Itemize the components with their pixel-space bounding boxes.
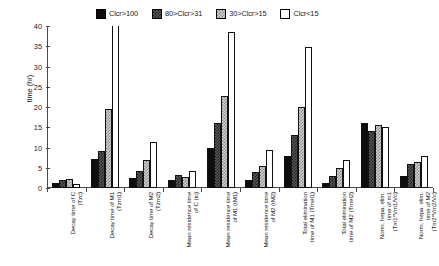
bar-9-2 <box>414 162 421 188</box>
bar-group-3 <box>163 26 202 188</box>
y-tick-label-10: 10 <box>34 143 42 152</box>
legend-label-2: 30>Clcr>15 <box>229 10 266 18</box>
legend-item-0: Clcr>100 <box>96 9 138 19</box>
bar-8-3 <box>382 127 389 188</box>
x-axis-label-3: Mean residence time of C (tc) <box>186 192 198 266</box>
bar-group-9 <box>394 26 433 188</box>
y-tick-label-35: 35 <box>34 42 42 51</box>
bar-3-1 <box>175 175 182 188</box>
bar-6-0 <box>284 156 291 188</box>
legend-swatch-icon-0 <box>96 9 106 19</box>
bar-group-0 <box>47 26 86 188</box>
legend-swatch-icon-2 <box>216 9 226 19</box>
x-axis-label-0: Decay time of C (Tzc) <box>70 192 82 266</box>
bar-0-3 <box>73 184 80 188</box>
bar-9-1 <box>407 164 414 188</box>
bar-4-1 <box>214 123 221 188</box>
bar-8-1 <box>368 131 375 189</box>
x-axis-label-6: Total elimination time of M1 (Tmel1) <box>302 192 314 266</box>
bar-7-3 <box>343 160 350 188</box>
bar-2-3 <box>150 142 157 188</box>
bar-6-2 <box>298 107 305 188</box>
bar-8-0 <box>361 123 368 188</box>
bar-group-5 <box>240 26 279 188</box>
bar-4-3 <box>228 32 235 188</box>
bar-9-3 <box>421 156 428 188</box>
legend-swatch-icon-3 <box>280 9 290 19</box>
bar-9-0 <box>400 176 407 188</box>
bar-7-0 <box>322 183 329 188</box>
bar-5-2 <box>259 166 266 188</box>
bar-3-0 <box>168 180 175 188</box>
legend-swatch-icon-1 <box>152 9 162 19</box>
legend-label-3: Clcr<15 <box>293 10 318 18</box>
bar-3-3 <box>189 171 196 188</box>
bar-0-2 <box>66 179 73 188</box>
bar-6-3 <box>305 47 312 188</box>
bar-group-6 <box>279 26 318 188</box>
y-tick-label-30: 30 <box>34 62 42 71</box>
bar-group-2 <box>124 26 163 188</box>
plot-area: 0510152025303540 <box>47 26 433 188</box>
bar-4-0 <box>207 148 214 188</box>
legend-label-0: Clcr>100 <box>109 10 138 18</box>
y-tick-label-15: 15 <box>34 123 42 132</box>
x-axis-label-8: Norm. hepa. elim. time of m1 (Tm1*Vm1/Vc… <box>379 192 391 266</box>
x-axis-label-5: Mean residence time of M2 (tM2) <box>263 192 275 266</box>
y-tick-label-0: 0 <box>38 184 42 193</box>
legend-label-1: 80>Clcr>31 <box>165 10 202 18</box>
bar-1-3 <box>112 26 119 188</box>
y-tick-label-20: 20 <box>34 103 42 112</box>
x-axis-labels: Decay time of C (Tzc)Decay time of M1 (T… <box>47 192 433 266</box>
bar-group-4 <box>201 26 240 188</box>
legend-item-2: 30>Clcr>15 <box>216 9 266 19</box>
bar-0-1 <box>59 180 66 188</box>
bar-2-2 <box>143 160 150 188</box>
x-axis-label-9: Norm. hepa. elim. time of M2 (Tm2*Vm2/Vc… <box>418 192 430 266</box>
bar-1-0 <box>91 159 98 188</box>
chart-legend: Clcr>100 80>Clcr>31 30>Clcr>15 Clcr<15 <box>96 7 434 20</box>
x-axis-label-1: Decay time of M1 (Tzm1) <box>109 192 121 266</box>
bar-4-2 <box>221 96 228 188</box>
bar-7-1 <box>329 176 336 188</box>
bar-7-2 <box>336 168 343 188</box>
y-tick-label-25: 25 <box>34 82 42 91</box>
bar-5-0 <box>245 180 252 188</box>
bar-5-1 <box>252 172 259 188</box>
bar-3-2 <box>182 177 189 188</box>
bar-0-0 <box>52 183 59 188</box>
bar-8-2 <box>375 125 382 188</box>
bar-6-1 <box>291 135 298 188</box>
bar-5-3 <box>266 150 273 188</box>
legend-item-1: 80>Clcr>31 <box>152 9 202 19</box>
y-tick-label-40: 40 <box>34 22 42 31</box>
y-tick-label-5: 5 <box>38 163 42 172</box>
x-axis-label-2: Decay time of M2 (Tzm2) <box>148 192 160 266</box>
legend-item-3: Clcr<15 <box>280 9 318 19</box>
x-axis-label-4: Mean residence time of M1 (tM1) <box>225 192 237 266</box>
bar-group-8 <box>356 26 395 188</box>
bar-2-0 <box>129 178 136 188</box>
bar-2-1 <box>136 171 143 188</box>
bar-chart-figure: Clcr>100 80>Clcr>31 30>Clcr>15 Clcr<15 t… <box>0 0 439 266</box>
bar-1-2 <box>105 109 112 188</box>
bar-group-1 <box>86 26 125 188</box>
bar-1-1 <box>98 151 105 188</box>
bar-group-7 <box>317 26 356 188</box>
y-axis-title: time (hr) <box>25 59 34 119</box>
x-axis-label-7: Total elimination time of M2 (Tmel2) <box>341 192 353 266</box>
